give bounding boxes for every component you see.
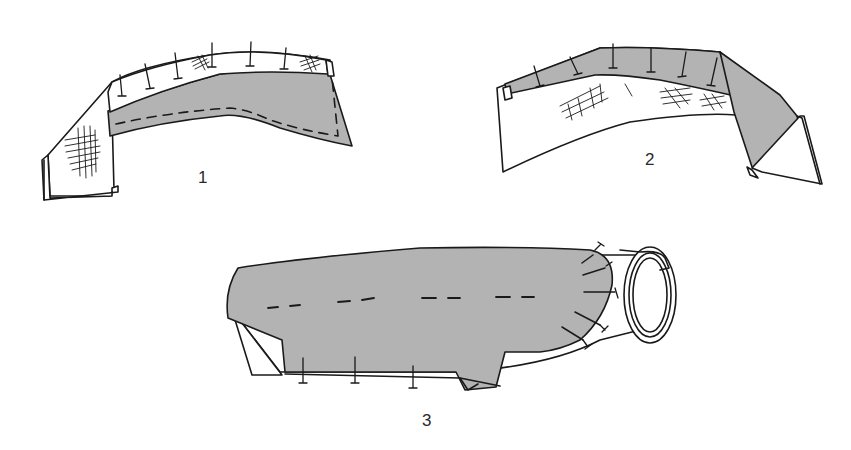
figure-2-collar (497, 44, 822, 184)
figure-3-sleeve (227, 242, 676, 390)
illustration-svg (0, 0, 851, 450)
figure-1-label: 1 (198, 168, 207, 188)
figure-1-collar (42, 42, 352, 200)
figure-2-label: 2 (645, 150, 654, 170)
diagram-canvas: 1 2 3 (0, 0, 851, 450)
figure-3-label: 3 (422, 411, 431, 431)
